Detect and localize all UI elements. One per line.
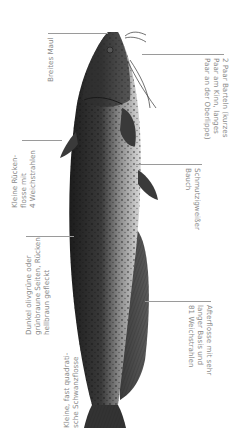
label-belly: Schmutzigweißer Bauch bbox=[184, 168, 202, 230]
leader-belly bbox=[136, 164, 202, 165]
label-sides: Dunkel olivgrüne oder grünbraune Seiten,… bbox=[24, 237, 51, 335]
leader-dorsal-fin bbox=[22, 140, 62, 141]
fish-diagram: Breites Maul 2 Paar Barteln (kurzes Paar… bbox=[0, 0, 230, 430]
label-dorsal-fin: Kleine Rücken- flosse mit 4 Weichstrahle… bbox=[10, 150, 37, 208]
label-mouth: Breites Maul bbox=[46, 37, 55, 82]
label-tail-fin: Kleine, fast quadrati- sche Schwanzfloss… bbox=[62, 353, 80, 428]
leader-barbels bbox=[142, 54, 224, 55]
label-anal-fin: Afterflosse mit sehr langer Basis und 81… bbox=[187, 305, 214, 375]
label-barbels: 2 Paar Barteln (kurzes Paar am Kinn, lan… bbox=[203, 58, 230, 139]
leader-anal-fin bbox=[145, 301, 211, 302]
pelvic-fin bbox=[138, 170, 158, 200]
leader-mouth bbox=[48, 33, 108, 34]
eye-icon bbox=[107, 47, 113, 53]
